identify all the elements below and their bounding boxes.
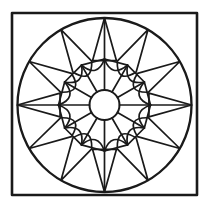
page-root: Geometric Mandala Coloring Page (0, 0, 210, 213)
artboard (0, 0, 210, 213)
mandala-svg (0, 0, 210, 213)
